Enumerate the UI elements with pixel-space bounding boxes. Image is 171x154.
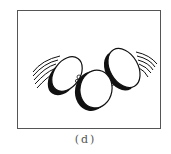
figure-illustration xyxy=(0,0,171,154)
figure-caption: (d) xyxy=(0,133,171,146)
